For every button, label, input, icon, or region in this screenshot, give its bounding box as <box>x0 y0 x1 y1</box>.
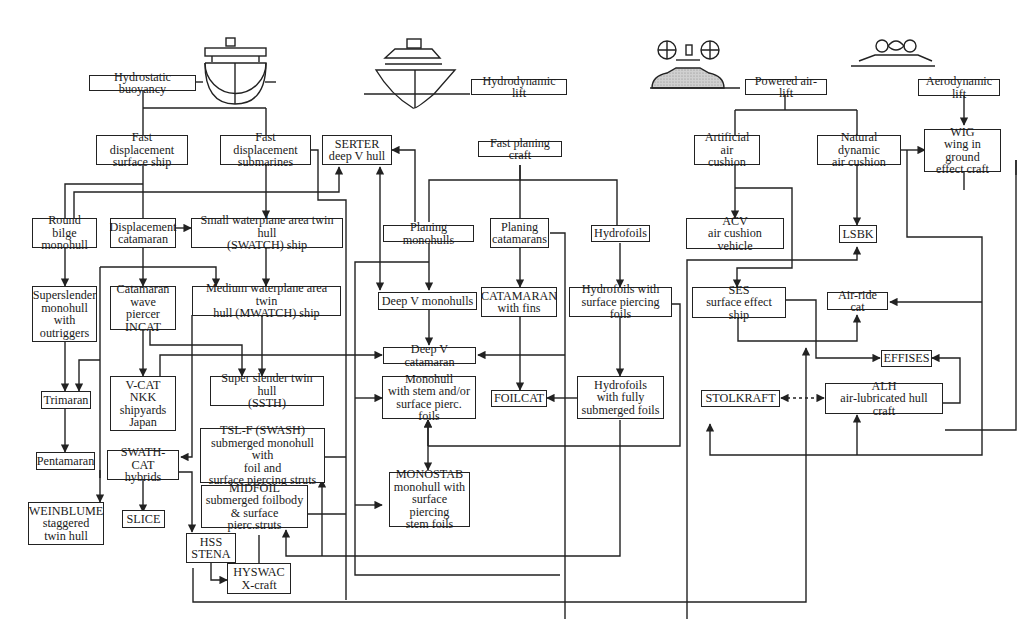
node-catamaran-wave-piercer-incat[interactable]: Catamaran wave piercer INCAT <box>110 286 176 330</box>
node-air-ride-cat[interactable]: Air-ride cat <box>827 292 888 310</box>
node-deep-v-catamaran[interactable]: Deep V catamaran <box>383 347 476 364</box>
node-swath-cat-hybrids[interactable]: SWATH-CAT hybrids <box>107 450 179 480</box>
hovercraft-icon <box>650 41 740 88</box>
node-displacement-catamaran[interactable]: Displacement catamaran <box>110 218 176 248</box>
node-pentamaran[interactable]: Pentamaran <box>36 452 95 470</box>
node-tsl-f-swash[interactable]: TSL-F (SWASH) submerged monohull with fo… <box>200 428 325 483</box>
node-hydrofoils[interactable]: Hydrofoils <box>591 225 650 242</box>
node-effises[interactable]: EFFISES <box>881 350 932 367</box>
node-foilcat[interactable]: FOILCAT <box>491 390 547 407</box>
node-catamaran-with-fins[interactable]: CATAMARAN with fins <box>481 287 557 317</box>
node-fast-displacement-surface-ship[interactable]: Fast displacement surface ship <box>96 135 188 165</box>
node-hss-stena[interactable]: HSS STENA <box>186 533 236 563</box>
category-powered-air-lift[interactable]: Powered air-lift <box>745 79 827 95</box>
planing-hull-icon <box>364 39 470 108</box>
node-mwatch-ship[interactable]: Medium waterplane area twin hull (MWATCH… <box>192 286 341 316</box>
node-serter-deep-v-hull[interactable]: SERTER deep V hull <box>322 135 392 165</box>
category-hydrostatic-buoyancy[interactable]: Hydrostatic buoyancy <box>89 75 196 91</box>
node-ssth[interactable]: Super slender twin hull (SSTH) <box>210 376 324 406</box>
node-fast-planing-craft[interactable]: Fast planing craft <box>478 141 562 157</box>
node-deep-v-monohulls[interactable]: Deep V monohulls <box>378 292 477 310</box>
displacement-hull-icon <box>205 38 266 104</box>
node-monostab[interactable]: MONOSTAB monohull with surface piercing … <box>389 472 470 527</box>
node-slice[interactable]: SLICE <box>122 510 165 528</box>
node-superslender-monohull[interactable]: Superslender monohull with outriggers <box>32 286 97 342</box>
node-midfoil[interactable]: MIDFOIL submerged foilbody & surface pie… <box>201 485 308 528</box>
node-hydrofoils-fully-submerged[interactable]: Hydrofoils with fully submerged foils <box>577 376 664 419</box>
node-wig[interactable]: WIG wing in ground effect craft <box>924 129 1001 172</box>
node-artificial-air-cushion[interactable]: Artificial air cushion <box>694 135 760 165</box>
diagram-canvas: Hydrostatic buoyancy Hydrodynamic lift P… <box>0 0 1021 619</box>
node-planing-catamarans[interactable]: Planing catamarans <box>490 218 549 248</box>
category-aerodynamic-lift[interactable]: Aerodynamic lift <box>918 79 1000 96</box>
wig-craft-icon <box>851 40 935 66</box>
node-acv[interactable]: ACV air cushion vehicle <box>686 218 784 249</box>
node-planing-monohulls[interactable]: Planing monohulls <box>383 225 474 242</box>
node-hyswac-x-craft[interactable]: HYSWAC X-craft <box>227 563 291 594</box>
node-ses[interactable]: SES surface effect ship <box>692 287 786 318</box>
node-round-bilge-monohull[interactable]: Round bilge monohull <box>32 218 97 248</box>
node-monohull-stem-foils[interactable]: Monohull with stem and/or surface pierc.… <box>382 376 476 419</box>
category-hydrodynamic-lift[interactable]: Hydrodynamic lift <box>471 79 567 95</box>
node-alh[interactable]: ALH air-lubricated hull craft <box>825 383 943 414</box>
node-natural-dynamic-air-cushion[interactable]: Natural dynamic air cushion <box>817 135 901 165</box>
node-hydrofoils-surface-piercing[interactable]: Hydrofoils with surface piercing foils <box>569 287 672 317</box>
node-fast-displacement-submarines[interactable]: Fast displacement submarines <box>220 135 311 165</box>
node-weinblume[interactable]: WEINBLUME staggered twin hull <box>28 502 104 545</box>
node-swatch-ship[interactable]: Small waterplane area twin hull (SWATCH)… <box>191 218 343 248</box>
node-lsbk[interactable]: LSBK <box>839 225 877 243</box>
node-v-cat-nkk[interactable]: V-CAT NKK shipyards Japan <box>110 376 176 431</box>
node-trimaran[interactable]: Trimaran <box>41 391 91 409</box>
node-stolkraft[interactable]: STOLKRAFT <box>701 390 780 407</box>
